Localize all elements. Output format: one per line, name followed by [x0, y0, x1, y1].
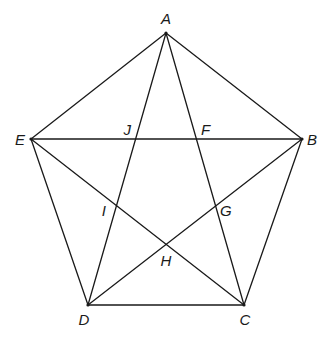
label-H: H — [161, 252, 172, 269]
pentagram-diagram: A B C D E F G H I J — [0, 0, 329, 339]
label-E: E — [15, 131, 26, 148]
pentagon-edge-BC — [244, 139, 302, 305]
label-C: C — [240, 311, 251, 328]
label-B: B — [307, 131, 317, 148]
label-F: F — [201, 121, 211, 138]
label-J: J — [123, 121, 132, 138]
pentagon-edge-DE — [31, 139, 88, 305]
star-edge-EC — [31, 139, 244, 305]
pentagon-edge-AB — [166, 33, 302, 139]
star-edge-AC — [166, 33, 244, 305]
label-G: G — [220, 202, 232, 219]
star-edge-BD — [88, 139, 302, 305]
vertex-A — [164, 31, 167, 34]
label-I: I — [102, 202, 106, 219]
label-D: D — [79, 311, 90, 328]
vertex-B — [300, 137, 303, 140]
label-A: A — [160, 10, 171, 27]
point-labels: A B C D E F G H I J — [15, 10, 317, 328]
vertex-C — [242, 303, 245, 306]
vertex-D — [86, 303, 89, 306]
vertex-E — [29, 137, 32, 140]
star-edge-AD — [88, 33, 166, 305]
pentagon-edge-EA — [31, 33, 166, 139]
